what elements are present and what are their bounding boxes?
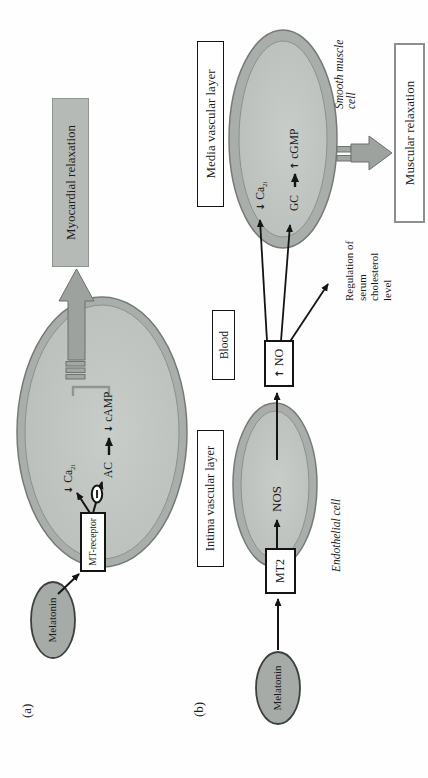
- cholesterol-regulation-label: Regulation of serum cholesterol level: [343, 241, 393, 301]
- no-box: ↑ NO: [264, 340, 294, 387]
- panel-b-label: (b): [191, 702, 207, 717]
- down-arrow-icon: ↓: [63, 486, 74, 494]
- up-arrow-icon: ↑: [273, 369, 285, 378]
- intima-vascular-layer-box: Intima vascular layer: [197, 430, 224, 567]
- down-arrow-icon: ↓: [103, 425, 114, 433]
- panel-a-label: (a): [19, 704, 35, 718]
- membrane-channel-bars-b: [337, 147, 351, 162]
- endothelial-cell-label: Endothelial cell: [330, 499, 342, 572]
- calcium-label-a: ↓ Ca2i: [62, 465, 77, 495]
- figure-canvas: (a) Melatonin MT-receptor ↓ Ca2i AC ↓ cA…: [0, 0, 428, 778]
- membrane-channel-bars-a: [66, 362, 85, 380]
- smooth-muscle-inner: [239, 41, 327, 237]
- melatonin-label-a: Melatonin: [46, 582, 58, 658]
- mt-receptor-box: MT-receptor: [80, 512, 106, 572]
- calcium-label-b: ↓ Ca2i: [254, 182, 269, 212]
- up-arrow-icon: ↑: [289, 162, 300, 170]
- blood-box: Blood: [212, 310, 235, 380]
- relaxation-arrow-b: [351, 136, 392, 170]
- arrow-no-to-cholesterol: [289, 284, 328, 343]
- camp-label: ↓ cAMP: [102, 392, 114, 433]
- melatonin-label-b: Melatonin: [271, 652, 283, 724]
- media-vascular-layer-box: Media vascular layer: [197, 41, 224, 207]
- down-arrow-icon: ↓: [255, 203, 266, 211]
- inhibition-minus-icon: [92, 486, 102, 503]
- myocardial-relaxation-bar: Myocardial relaxation: [52, 98, 89, 267]
- gc-label: GC: [288, 195, 300, 211]
- nos-label: NOS: [269, 486, 285, 512]
- mt2-box: MT2: [265, 548, 296, 594]
- muscular-relaxation-box: Muscular relaxation: [394, 43, 425, 223]
- ac-label: AC: [102, 462, 114, 478]
- figure-viewport: (a) Melatonin MT-receptor ↓ Ca2i AC ↓ cA…: [0, 0, 428, 778]
- cgmp-label: ↑ cGMP: [288, 129, 300, 170]
- smooth-muscle-cell-label: Smooth muscle cell: [333, 40, 357, 109]
